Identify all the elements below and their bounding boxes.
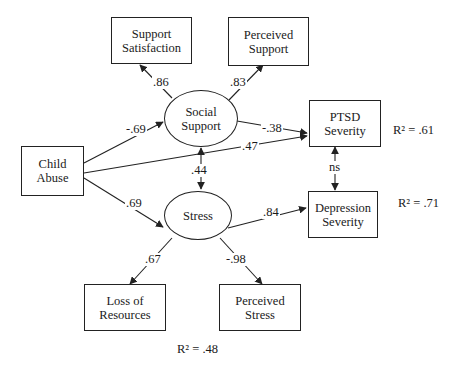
coef-abuse-to-ptsd: .47 [241,140,259,153]
node-label: PTSD [330,110,361,124]
node-label: Stress [245,308,275,322]
node-label: Stress [183,209,213,223]
node-label: Support [181,119,221,133]
node-stress: Stress [164,191,232,240]
node-label: Severity [324,124,366,138]
node-ptsd-severity: PTSD Severity [309,100,381,147]
r-squared-ptsd: R² = .61 [393,123,434,138]
coef-social-stress-covariance: .44 [190,164,208,177]
node-label: Perceived [244,28,293,42]
node-child-abuse: Child Abuse [21,146,84,196]
coef-social-to-ptsd: -.38 [261,122,283,135]
node-label: Perceived [235,294,284,308]
node-social-support: Social Support [164,90,238,147]
coef-stress-to-loss: .67 [144,253,162,266]
arrow-abuse-to-social [84,122,163,163]
coef-social-to-satisfaction: .86 [152,76,170,89]
node-label: Loss of [106,294,143,308]
node-label: Resources [99,308,150,322]
node-label: Abuse [37,171,69,185]
coef-abuse-to-stress: .69 [125,197,143,210]
node-label: Social [185,105,216,119]
coef-social-to-perceived-support: .83 [229,76,247,89]
r-squared-stress: R² = .48 [177,342,218,357]
node-perceived-stress: Perceived Stress [219,284,301,331]
node-label: Support [249,42,289,56]
coef-stress-to-perceived-stress: -.98 [225,253,247,266]
node-label: Support [132,27,172,41]
sem-path-diagram: Support Satisfaction Perceived Support C… [0,0,454,365]
coef-abuse-to-social: -.69 [125,123,147,136]
node-depression-severity: Depression Severity [308,191,378,238]
arrow-abuse-to-stress [84,178,163,227]
node-perceived-support: Perceived Support [228,17,309,66]
node-label: Severity [322,215,364,229]
node-label: Child [39,157,67,171]
coef-stress-to-depression: .84 [262,206,280,219]
coef-ptsd-depression-covariance: ns [328,161,341,174]
node-loss-of-resources: Loss of Resources [84,284,166,331]
node-label: Satisfaction [122,41,181,55]
node-support-satisfaction: Support Satisfaction [111,17,192,64]
node-label: Depression [315,201,371,215]
r-squared-depression: R² = .71 [398,196,439,211]
